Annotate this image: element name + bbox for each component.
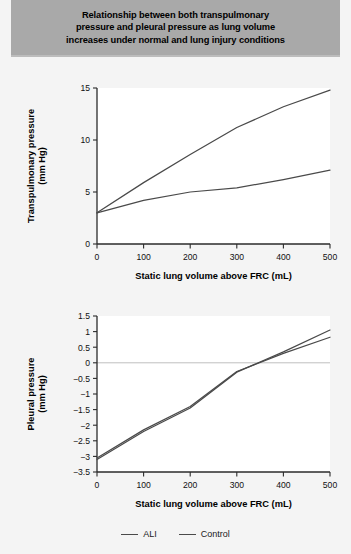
chart-panel-transpulmonary: 0510150100200300400500Static lung volume…	[0, 62, 351, 284]
figure-root: Relationship between both transpulmonary…	[0, 0, 351, 554]
x-axis-tick-label: 300	[230, 480, 245, 490]
y-axis-tick-label: 15	[80, 83, 90, 93]
legend-label-ali: ALI	[143, 529, 157, 539]
chart-legend: ALI Control	[0, 522, 351, 546]
x-axis-title: Static lung volume above FRC (mL)	[135, 271, 292, 281]
y-axis-tick-label: −3.5	[73, 467, 90, 477]
figure-title-line-1: Relationship between both transpulmonary	[66, 9, 285, 22]
legend-label-control: Control	[201, 529, 230, 539]
x-axis-tick-label: 500	[323, 252, 338, 262]
y-axis-tick-label: 5	[85, 187, 90, 197]
figure-title-line-2: pressure and pleural pressure as lung vo…	[66, 21, 285, 34]
x-axis-title: Static lung volume above FRC (mL)	[135, 499, 292, 509]
x-axis-tick-label: 100	[136, 480, 151, 490]
legend-swatch-control	[179, 534, 196, 535]
x-axis-tick-label: 200	[183, 480, 198, 490]
x-axis-tick-label: 400	[276, 480, 291, 490]
y-axis-tick-label: −2.5	[73, 436, 90, 446]
figure-title-line-3: increases under normal and lung injury c…	[66, 34, 285, 47]
y-axis-tick-label: −0.5	[73, 374, 90, 384]
x-axis-tick-label: 400	[276, 252, 291, 262]
plot-area-background	[97, 88, 330, 244]
x-axis-tick-label: 200	[183, 252, 198, 262]
figure-title: Relationship between both transpulmonary…	[56, 9, 295, 47]
y-axis-title-line-1: Pleural pressure	[26, 358, 36, 431]
y-axis-tick-label: 10	[80, 135, 90, 145]
x-axis-tick-label: 0	[95, 480, 100, 490]
plot-area-background	[97, 316, 330, 472]
chart-panel-pleural: −3.5−3−2.5−2−1.5−1−0.500.511.50100200300…	[0, 290, 351, 512]
legend-item-ali: ALI	[121, 529, 157, 539]
transpulmonary-pressure-chart: 0510150100200300400500Static lung volume…	[0, 62, 351, 284]
y-axis-tick-label: 1	[85, 327, 90, 337]
figure-title-band: Relationship between both transpulmonary…	[11, 0, 340, 57]
y-axis-tick-label: −1	[80, 389, 90, 399]
y-axis-tick-label: −1.5	[73, 405, 90, 415]
y-axis-title: Pleural pressure(mm Hg)	[26, 358, 47, 431]
y-axis-tick-label: 0.5	[78, 343, 90, 353]
y-axis-tick-label: −2	[80, 421, 90, 431]
y-axis-tick-label: 0	[85, 239, 90, 249]
legend-item-control: Control	[179, 529, 230, 539]
y-axis-tick-label: 0	[85, 358, 90, 368]
pleural-pressure-chart: −3.5−3−2.5−2−1.5−1−0.500.511.50100200300…	[0, 290, 351, 512]
y-axis-title: Transpulmonary pressure(mm Hg)	[26, 109, 47, 223]
y-axis-tick-label: −3	[80, 452, 90, 462]
legend-swatch-ali	[121, 534, 138, 535]
y-axis-title-line-1: Transpulmonary pressure	[26, 109, 36, 223]
y-axis-title-line-2: (mm Hg)	[37, 375, 47, 413]
x-axis-tick-label: 500	[323, 480, 338, 490]
x-axis-tick-label: 0	[95, 252, 100, 262]
y-axis-title-line-2: (mm Hg)	[37, 147, 47, 185]
x-axis-tick-label: 300	[230, 252, 245, 262]
y-axis-tick-label: 1.5	[78, 311, 90, 321]
x-axis-tick-label: 100	[136, 252, 151, 262]
